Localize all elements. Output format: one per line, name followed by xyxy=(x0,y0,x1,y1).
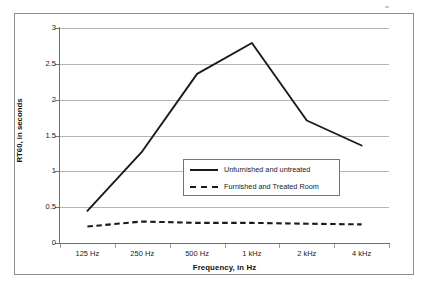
chart-figure: 00.511.522.53 125 Hz250 Hz500 Hz1 kHz2 k… xyxy=(0,0,431,299)
legend-solid-line-icon xyxy=(190,165,218,175)
legend-label-furnished: Furnished and Treated Room xyxy=(224,182,319,191)
y-axis-title: RT60, in seconds xyxy=(15,76,24,186)
series-layer xyxy=(0,0,431,299)
chart-legend: Unfurnished and untreated Furnished and … xyxy=(183,159,340,196)
legend-label-unfurnished: Unfurnished and untreated xyxy=(224,165,310,174)
legend-dashed-line-icon xyxy=(190,182,218,192)
legend-item-furnished: Furnished and Treated Room xyxy=(184,178,339,195)
legend-item-unfurnished: Unfurnished and untreated xyxy=(184,161,339,178)
x-axis-title: Frequency, in Hz xyxy=(60,263,389,272)
series-line-furnished xyxy=(87,222,361,227)
